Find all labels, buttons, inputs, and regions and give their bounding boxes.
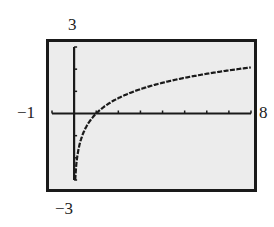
calculator-graph — [0, 0, 274, 227]
screen-frame — [48, 41, 256, 191]
xmin-label: −1 — [17, 104, 35, 121]
ymax-label: 3 — [68, 16, 77, 33]
xmax-label: 8 — [259, 104, 268, 121]
ymin-label: −3 — [55, 200, 73, 217]
